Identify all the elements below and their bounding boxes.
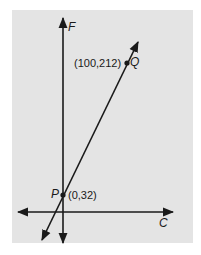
graph-svg <box>0 0 201 255</box>
point-p-coords: (0,32) <box>68 189 97 201</box>
point-q-label: Q <box>130 56 139 68</box>
point-q-coords: (100,212) <box>74 57 121 69</box>
c-axis-label: C <box>159 217 168 229</box>
point-q <box>124 60 129 65</box>
point-p <box>60 192 65 197</box>
pq-line <box>42 42 138 240</box>
point-p-label: P <box>51 188 59 200</box>
f-axis-label: F <box>68 21 75 33</box>
